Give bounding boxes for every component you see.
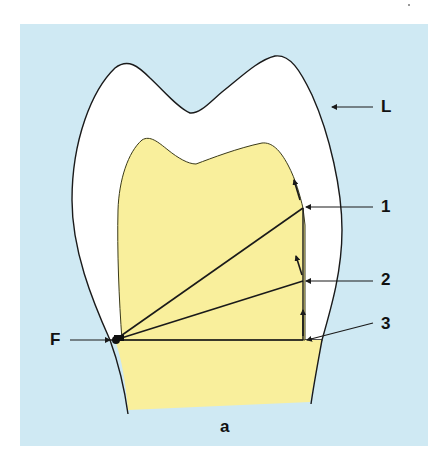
label-1: 1 xyxy=(381,198,390,215)
panel-label: a xyxy=(220,418,229,435)
fulcrum-block xyxy=(114,335,124,341)
tooth-diagram xyxy=(0,0,439,458)
label-L: L xyxy=(381,98,391,115)
label-2: 2 xyxy=(381,271,390,288)
label-F: F xyxy=(50,331,60,348)
root-dentin xyxy=(115,340,322,410)
label-3: 3 xyxy=(381,315,390,332)
